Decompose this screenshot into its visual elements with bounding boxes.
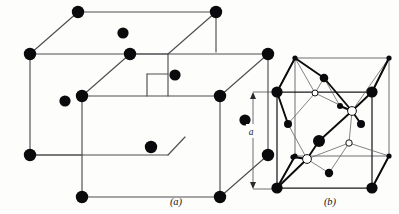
atom-face [239,114,250,125]
atom-interior-large [313,135,325,147]
bond-light [329,143,349,173]
bond-light [352,58,389,111]
edge-f-diag-top-right [220,54,268,96]
atom-interior-small [337,103,343,109]
bond-light [349,143,389,156]
atom-corner [72,6,84,18]
atom-corner [24,48,36,60]
atom-corner-large [366,182,377,193]
atom-corner [214,90,226,102]
panel-a-group: (a) [24,6,274,208]
atom-open [312,90,318,96]
atom-body-centre [169,69,180,80]
bond-strong [295,58,324,78]
figure-canvas: (a) a [0,0,399,214]
edge-f-diag-top-left [82,54,130,96]
dim-arrowhead-up [250,92,256,99]
edge-diag-bottom [168,137,185,155]
atom-corner [124,48,136,60]
atom-open [346,140,352,146]
lattice-parameter-dimension: a [246,92,277,189]
atom-corner-large [271,86,282,97]
bond-light [288,124,307,159]
panel-b-caption: (b) [324,196,337,208]
dim-arrowhead-down [250,182,256,189]
edge-diag-top-left [30,12,78,54]
lattice-parameter-label: a [249,127,254,137]
atom-face-centre [325,169,333,177]
panel-b-atoms [271,55,391,193]
atom-corner [210,6,222,18]
atom-body-centre [117,27,128,38]
atom-corner [59,95,70,106]
atom-interior-small [290,154,295,159]
panel-b-front-edges [277,58,389,188]
atom-corner [76,90,88,102]
crystal-structure-figure: (a) a [0,0,399,214]
atom-open [348,107,357,116]
atom-corner-large [271,182,282,193]
atom-body-centre [145,141,157,153]
atom-face-centre [284,120,292,128]
bond-strong [372,58,389,92]
atom-corner [76,191,88,203]
atom-corner-small [386,153,391,158]
bond-strong [319,111,352,141]
atom-corner [262,48,274,60]
bond-strong [277,159,307,188]
atom-corner [24,149,36,161]
atom-open [303,155,312,164]
bond-light [288,93,315,124]
bond-strong [277,58,295,92]
atom-corner [214,191,226,203]
panel-a-atoms [24,6,274,203]
atom-corner [262,149,274,161]
panel-a-caption: (a) [170,196,183,208]
atom-corner-small [292,55,297,60]
atom-face-centre [357,120,365,128]
edge-f-diag-bottom-right [220,155,268,197]
atom-corner-small [386,55,391,60]
bond-light [295,58,315,93]
edge-diag-top-right [168,12,216,54]
atom-face-centre [320,74,329,83]
atom-corner-large [366,86,377,97]
